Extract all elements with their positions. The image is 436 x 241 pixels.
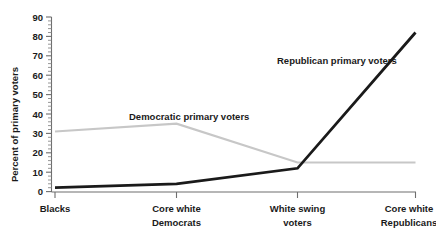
x-label-core-white-republicans-line2: Republicans (381, 217, 436, 228)
y-tick-label-10: 10 (32, 167, 43, 178)
series-line-democratic-primary-voters (55, 124, 416, 163)
y-axis-ticks: 90 80 70 60 50 40 30 20 10 0 (32, 12, 51, 198)
y-tick-label-0: 0 (38, 186, 43, 197)
x-label-core-white-democrats-line1: Core white (152, 203, 201, 214)
y-tick-label-70: 70 (32, 50, 43, 61)
series-annotation-republican: Republican primary voters (277, 55, 397, 66)
x-axis-ticks (55, 192, 416, 198)
line-chart: Percent of primary voters 90 80 70 60 50… (0, 0, 436, 241)
series-annotation-democratic: Democratic primary voters (129, 111, 249, 122)
y-tick-label-30: 30 (32, 128, 43, 139)
x-label-blacks-line1: Blacks (40, 203, 71, 214)
y-tick-label-40: 40 (32, 109, 43, 120)
y-tick-label-20: 20 (32, 147, 43, 158)
chart-container: Percent of primary voters 90 80 70 60 50… (0, 0, 436, 241)
y-tick-label-80: 80 (32, 31, 43, 42)
x-axis-labels: Blacks Core white Democrats White swing … (40, 203, 436, 228)
y-axis-title: Percent of primary voters (9, 67, 20, 182)
y-tick-label-60: 60 (32, 70, 43, 81)
y-tick-label-90: 90 (32, 12, 43, 23)
x-label-core-white-republicans-line1: Core white (385, 203, 434, 214)
x-label-white-swing-voters-line1: White swing (270, 203, 326, 214)
x-label-core-white-democrats-line2: Democrats (152, 217, 201, 228)
y-tick-label-50: 50 (32, 89, 43, 100)
x-label-white-swing-voters-line2: voters (283, 217, 312, 228)
